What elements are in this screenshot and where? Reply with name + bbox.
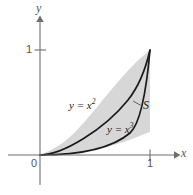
curve-label-y-equals-x-cubed-exponent: 3 <box>130 121 134 130</box>
y-tick-label-1: 1 <box>26 44 32 55</box>
plot-canvas <box>0 0 193 195</box>
curve-label-y-equals-x-cubed: y = x3 <box>107 124 133 135</box>
curve-label-y-equals-x-squared-exponent: 2 <box>92 97 96 106</box>
origin-tick-label: 0 <box>31 158 37 169</box>
math-figure: y x 0 1 1 y = x2 y = x3 S <box>0 0 193 195</box>
x-tick-label-1: 1 <box>147 158 153 169</box>
x-axis-label: x <box>181 147 186 159</box>
x-axis-arrow <box>174 151 181 159</box>
curve-label-y-equals-x-cubed-text: y = x <box>107 123 130 135</box>
y-axis-label: y <box>36 2 41 14</box>
curve-label-y-equals-x-squared: y = x2 <box>69 100 95 111</box>
y-axis-arrow <box>36 16 44 23</box>
curve-label-y-equals-x-squared-text: y = x <box>69 99 92 111</box>
region-label-S: S <box>143 99 149 111</box>
